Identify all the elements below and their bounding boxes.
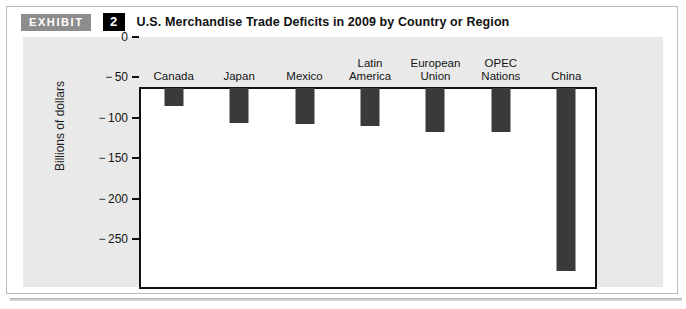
- bar: [557, 88, 576, 271]
- y-axis-tick-label: − 200: [58, 192, 128, 206]
- bar: [426, 88, 445, 132]
- y-axis-tickmark: [132, 36, 139, 38]
- y-axis-tickmark: [132, 238, 139, 240]
- bar: [361, 88, 380, 126]
- bar: [295, 88, 314, 124]
- exhibit-tag-label: EXHIBIT: [21, 14, 91, 31]
- bar: [164, 88, 183, 106]
- y-axis-tick-label: − 100: [58, 111, 128, 125]
- exhibit-title: U.S. Merchandise Trade Deficits in 2009 …: [137, 15, 510, 29]
- category-label: Japan: [223, 70, 254, 83]
- category-label: European Union: [410, 57, 460, 82]
- bar: [230, 88, 249, 123]
- y-axis-tickmark: [132, 76, 139, 78]
- bar: [491, 88, 510, 132]
- card-shadow: [10, 298, 682, 301]
- category-label: China: [551, 70, 581, 83]
- y-axis-tickmark: [132, 157, 139, 159]
- y-axis-tick-label: − 50: [58, 70, 128, 84]
- category-label: Mexico: [286, 70, 322, 83]
- y-axis-tickmark: [132, 198, 139, 200]
- exhibit-number-badge: 2: [103, 13, 125, 31]
- y-axis-tickmark: [132, 117, 139, 119]
- y-axis-tick-label: − 250: [58, 232, 128, 246]
- exhibit-card: EXHIBIT 2 U.S. Merchandise Trade Deficit…: [6, 6, 678, 294]
- y-axis-tick-label: 0: [58, 30, 128, 44]
- y-axis-tick-label: − 150: [58, 151, 128, 165]
- category-label: OPEC Nations: [481, 57, 520, 82]
- chart-panel: Billions of dollars 0− 50− 100− 150− 200…: [23, 37, 663, 287]
- category-label: Canada: [154, 70, 194, 83]
- category-label: Latin America: [349, 57, 391, 82]
